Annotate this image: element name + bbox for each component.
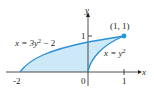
- equation-left: x = 3y2 − 2: [14, 38, 55, 48]
- equation-right: x = y2: [103, 48, 126, 58]
- x-tick-label-0: 0: [81, 76, 86, 86]
- x-tick-label-1: 1: [122, 76, 127, 86]
- y-tick-label-1: 1: [81, 31, 86, 41]
- region-diagram: x y -2 0 1 1 (1, 1) x = 3y2 − 2 x = y2: [0, 0, 154, 91]
- y-axis-label: y: [84, 5, 89, 15]
- x-axis-label: x: [141, 67, 146, 77]
- point-label: (1, 1): [110, 21, 130, 31]
- x-tick-label-neg2: -2: [13, 76, 21, 86]
- intersection-point: [122, 34, 127, 39]
